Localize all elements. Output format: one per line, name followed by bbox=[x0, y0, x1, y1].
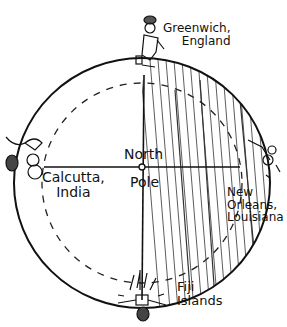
fiji-label-line2: Islands bbox=[177, 294, 222, 308]
new-orleans-label-line3: Louisiana bbox=[227, 211, 284, 224]
pole-label: Pole bbox=[130, 175, 159, 190]
fiji-label: Fiji Islands bbox=[177, 280, 222, 307]
calcutta-label-line2: India bbox=[42, 185, 105, 200]
greenwich-label-line2: England bbox=[163, 35, 231, 48]
fiji-label-line1: Fiji bbox=[177, 280, 222, 294]
greenwich-label-line1: Greenwich, bbox=[163, 22, 231, 35]
north-pole-dot bbox=[139, 164, 145, 170]
calcutta-label-line1: Calcutta, bbox=[42, 170, 105, 185]
night-shading bbox=[140, 60, 282, 310]
calcutta-figure-icon bbox=[6, 137, 42, 179]
globe-diagram bbox=[0, 0, 287, 327]
north-label: North bbox=[124, 147, 163, 162]
new-orleans-label-line1: New bbox=[227, 186, 284, 199]
new-orleans-label: New Orleans, Louisiana bbox=[227, 186, 284, 224]
greenwich-label: Greenwich, England bbox=[163, 22, 231, 47]
calcutta-label: Calcutta, India bbox=[42, 170, 105, 199]
